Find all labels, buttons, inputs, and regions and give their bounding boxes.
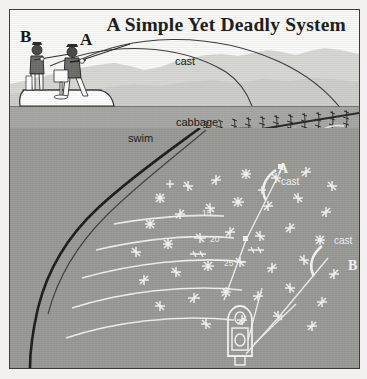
- label-angler-b-top: B: [20, 27, 31, 47]
- scene: A Simple Yet Deadly System: [10, 10, 359, 368]
- label-cabbage: cabbage: [176, 116, 218, 128]
- label-depth-20: 20': [210, 234, 221, 244]
- label-cast-top: cast: [175, 55, 195, 67]
- cast-arc-a: [76, 39, 342, 110]
- label-cast-b-plan: cast: [334, 235, 352, 246]
- illustration-page: A Simple Yet Deadly System: [0, 0, 367, 379]
- angler-b-figure: [26, 42, 70, 90]
- label-depth-15: 15': [202, 208, 213, 218]
- plan-view-graphics: [10, 128, 359, 368]
- boat-plan-view: [228, 306, 252, 365]
- label-swim: swim: [128, 132, 153, 144]
- label-angler-b-plan: B: [348, 258, 357, 274]
- contour-25: [82, 260, 246, 278]
- drop-off-contour: [30, 128, 200, 368]
- label-angler-a-plan: A: [278, 161, 288, 177]
- label-angler-a-top: A: [80, 30, 92, 50]
- label-cast-a-plan: cast: [281, 176, 299, 187]
- illustration-frame: A Simple Yet Deadly System: [9, 9, 360, 369]
- label-depth-25: 25': [224, 258, 235, 268]
